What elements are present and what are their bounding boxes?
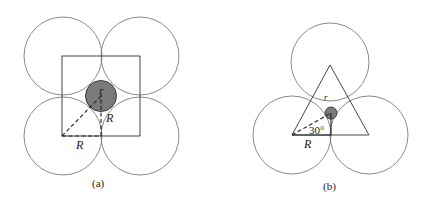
label-R-diagonal: R	[105, 111, 114, 125]
caption-b: (b)	[323, 180, 336, 193]
label-R-base: R	[75, 138, 84, 152]
diagram-canvas: r R R (a) r 30° R (b)	[0, 0, 426, 203]
label-angle: 30°	[309, 124, 324, 136]
label-r: r	[324, 92, 328, 102]
large-circle-top	[291, 23, 369, 101]
figure-a: r R R (a)	[24, 17, 179, 190]
figure-b: r 30° R (b)	[253, 23, 408, 193]
label-r: r	[99, 84, 104, 96]
label-R-base: R	[303, 137, 312, 151]
caption-a: (a)	[92, 177, 105, 190]
